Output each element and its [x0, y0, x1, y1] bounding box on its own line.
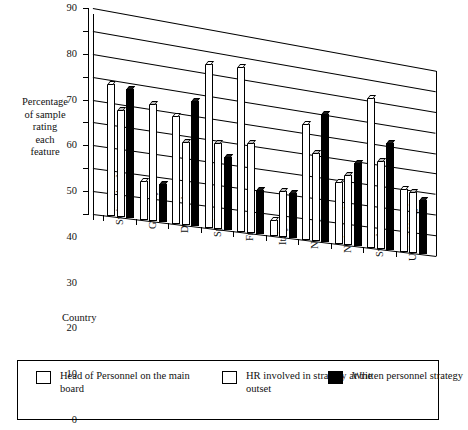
bar-top-face — [107, 81, 116, 85]
y-axis-line-inner — [93, 14, 94, 220]
bar-denmark-series2 — [182, 142, 190, 225]
bar-top-face — [191, 98, 200, 102]
bar-germany-series1 — [140, 181, 148, 219]
bar-germany-series3 — [159, 184, 167, 222]
bar-norway-series3 — [321, 114, 329, 242]
y-axis-tick: 10 — [83, 191, 89, 192]
y-axis-tick-label: 60 — [67, 140, 78, 150]
y-axis-line — [88, 8, 89, 214]
y-axis-tick-label: 40 — [67, 232, 78, 242]
bar-netherlands-series3 — [354, 163, 362, 245]
bar-italy-series1 — [270, 220, 278, 235]
y-axis-tick-label: 80 — [67, 49, 78, 59]
bar-spain-series1 — [205, 64, 213, 228]
bar-top-face — [237, 64, 246, 68]
bar-spain-series3 — [224, 157, 232, 230]
bar-norway-series2 — [312, 153, 320, 241]
bar-top-face — [400, 186, 409, 190]
x-axis-tick — [168, 223, 169, 229]
x-axis-tick — [331, 243, 332, 249]
y-axis-tick: 50 — [83, 100, 89, 101]
bar-top-face — [214, 140, 223, 144]
x-axis-tick — [201, 227, 202, 233]
bar-denmark-series1 — [172, 116, 180, 223]
y-axis-tick: 70 — [83, 54, 89, 55]
y-axis-tick: 40 — [83, 122, 89, 123]
y-axis-tick-label: 50 — [67, 186, 78, 196]
bar-top-face — [270, 217, 279, 221]
bar-top-face — [354, 160, 363, 164]
plot-area: 0102030405060708090 — [88, 8, 440, 220]
bar-france-series1 — [237, 67, 245, 231]
bar-netherlands-series2 — [344, 175, 352, 245]
bar-top-face — [172, 113, 181, 117]
bar-top-face — [279, 188, 288, 192]
bar-united-kingdom-series1 — [400, 189, 408, 252]
x-axis-title: Country — [62, 312, 96, 323]
y-axis-tick: 80 — [83, 31, 89, 32]
bar-top-face — [205, 61, 214, 65]
bar-top-face — [182, 139, 191, 143]
y-axis-tick-label: 70 — [67, 95, 78, 105]
y-axis-tick: 60 — [83, 77, 89, 78]
y-axis-tick: 90 — [83, 8, 89, 9]
legend: Head of Personnel on the main boardHR in… — [17, 360, 439, 420]
x-axis-tick — [266, 235, 267, 241]
bar-top-face — [344, 172, 353, 176]
bar-top-face — [302, 121, 311, 125]
x-axis-tick — [136, 219, 137, 225]
bar-sweden-series3 — [386, 143, 394, 250]
legend-item-label: Head of Personnel on the main board — [60, 370, 200, 395]
x-axis-tick — [396, 251, 397, 257]
bar-switzerland-series3 — [126, 89, 134, 218]
plot-right-edge — [436, 71, 437, 256]
dotted-square-icon — [222, 371, 237, 384]
bar-denmark-series3 — [191, 101, 199, 226]
bar-sweden-series2 — [377, 161, 385, 249]
bar-top-face — [367, 95, 376, 99]
bar-top-face — [140, 178, 149, 182]
y-axis-tick-label: 90 — [67, 3, 78, 13]
bar-united-kingdom-series2 — [409, 192, 417, 252]
white-square-icon — [36, 371, 51, 384]
bar-top-face — [386, 140, 395, 144]
bar-top-face — [419, 197, 428, 201]
bar-france-series2 — [247, 143, 255, 233]
bar-top-face — [312, 150, 321, 154]
bar-top-face — [289, 190, 298, 194]
y-axis-tick: 30 — [83, 145, 89, 146]
x-axis-tick — [298, 239, 299, 245]
y-axis-title-line: rating — [2, 121, 88, 134]
bar-top-face — [149, 101, 158, 105]
y-axis-tick-label: 30 — [67, 278, 78, 288]
bar-top-face — [247, 140, 256, 144]
bar-italy-series3 — [289, 193, 297, 238]
bar-top-face — [224, 154, 233, 158]
bar-switzerland-series1 — [107, 84, 115, 216]
bar-top-face — [159, 181, 168, 185]
bar-top-face — [321, 111, 330, 115]
bar-spain-series2 — [214, 143, 222, 229]
bar-united-kingdom-series3 — [419, 200, 427, 254]
bar-france-series3 — [256, 190, 264, 234]
bar-germany-series2 — [149, 104, 157, 221]
x-axis-tick — [103, 215, 104, 221]
bar-netherlands-series1 — [335, 182, 343, 244]
bar-top-face — [377, 158, 386, 162]
black-square-icon — [328, 371, 343, 384]
bar-top-face — [256, 187, 265, 191]
bar-top-face — [117, 107, 126, 111]
y-axis-title-line: of sample — [2, 109, 88, 122]
y-axis-tick: 20 — [83, 168, 89, 169]
bar-top-face — [126, 86, 135, 90]
gridline — [93, 100, 436, 154]
x-axis-tick — [233, 231, 234, 237]
gridline — [93, 77, 436, 134]
y-axis-tick-label: 20 — [67, 323, 78, 333]
y-axis-tick: 0 — [83, 214, 89, 215]
x-axis-tick — [363, 247, 364, 253]
bar-italy-series2 — [279, 191, 287, 236]
bar-sweden-series1 — [367, 98, 375, 248]
bar-switzerland-series2 — [117, 110, 125, 217]
